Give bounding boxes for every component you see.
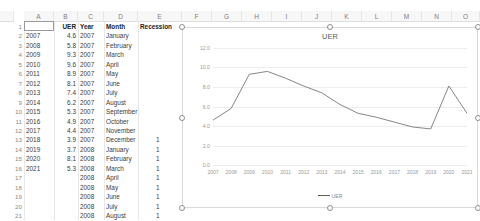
y-axis-tick-label: 0.0 (203, 162, 210, 168)
column-header-d[interactable]: D (104, 11, 138, 22)
resize-handle-bottom-right[interactable] (475, 205, 480, 211)
column-header-f[interactable]: F (182, 11, 212, 22)
cell-e21[interactable]: 1 (154, 211, 182, 221)
uer-line-path (213, 71, 467, 129)
x-axis-tick-label: 2021 (461, 169, 472, 175)
x-axis-tick-label: 2020 (443, 169, 454, 175)
y-axis-tick-label: 10.0 (200, 64, 210, 70)
resize-handle-middle-right[interactable] (475, 115, 480, 121)
x-axis-tick-label: 2012 (298, 169, 309, 175)
y-axis-tick-label: 12.0 (200, 45, 210, 51)
uer-line-series (213, 48, 467, 165)
resize-handle-top-left[interactable] (179, 24, 185, 30)
chart-title: UER (183, 32, 477, 41)
chart-object[interactable]: UER 0.02.04.06.08.010.012.0 200720082009… (182, 27, 478, 208)
resize-handle-top-center[interactable] (327, 24, 333, 30)
column-header-n[interactable]: N (422, 11, 452, 22)
cell-b16[interactable]: 5.3 (54, 164, 78, 174)
column-header-k[interactable]: K (332, 11, 362, 22)
y-axis-tick-label: 4.0 (203, 123, 210, 129)
resize-handle-top-right[interactable] (475, 24, 480, 30)
column-header-bar: ABCDEFGHIJKLMNO (0, 11, 480, 22)
x-axis-tick-label: 2009 (244, 169, 255, 175)
cell-d21[interactable]: August (104, 211, 138, 221)
legend-line-marker (318, 195, 330, 196)
column-header-c[interactable]: C (78, 11, 104, 22)
x-axis-tick-label: 2010 (262, 169, 273, 175)
column-header-j[interactable]: J (302, 11, 332, 22)
column-header-e[interactable]: E (138, 11, 182, 22)
x-axis-tick-label: 2014 (334, 169, 345, 175)
x-axis-tick-label: 2016 (371, 169, 382, 175)
x-axis-tick-label: 2008 (226, 169, 237, 175)
legend-label-uer: UER (332, 193, 343, 199)
chart-plot-area: 0.02.04.06.08.010.012.0 2007200820092010… (213, 48, 467, 165)
column-header-i[interactable]: I (272, 11, 302, 22)
x-axis-tick-label: 2013 (316, 169, 327, 175)
x-axis-tick-label: 2015 (353, 169, 364, 175)
column-header-h[interactable]: H (242, 11, 272, 22)
column-header-l[interactable]: L (362, 11, 392, 22)
cell-a16[interactable]: 2021 (24, 164, 54, 174)
resize-handle-middle-left[interactable] (179, 115, 185, 121)
x-axis-tick-label: 2017 (389, 169, 400, 175)
column-divider (138, 22, 139, 220)
chart-legend: UER (183, 193, 477, 199)
column-header-g[interactable]: G (212, 11, 242, 22)
x-axis-tick-label: 2019 (425, 169, 436, 175)
y-gridline (213, 165, 467, 166)
selected-cell-a1[interactable] (24, 21, 54, 31)
cell-e1-recession-header[interactable]: Recession (138, 22, 182, 32)
resize-handle-bottom-left[interactable] (179, 205, 185, 211)
column-header-m[interactable]: M (392, 11, 422, 22)
resize-handle-bottom-center[interactable] (327, 205, 333, 211)
column-header-o[interactable]: O (452, 11, 480, 22)
x-axis-tick-label: 2018 (407, 169, 418, 175)
x-axis-tick-label: 2007 (207, 169, 218, 175)
row-header-21[interactable]: 21 (14, 211, 24, 221)
cell-c21[interactable]: 2008 (78, 211, 104, 221)
y-axis-tick-label: 8.0 (203, 84, 210, 90)
y-axis-tick-label: 2.0 (203, 143, 210, 149)
y-axis-tick-label: 6.0 (203, 104, 210, 110)
column-header-b[interactable]: B (54, 11, 78, 22)
spreadsheet-canvas: ABCDEFGHIJKLMNO 123456789101112131415161… (0, 0, 480, 221)
x-axis-tick-label: 2011 (280, 169, 291, 175)
